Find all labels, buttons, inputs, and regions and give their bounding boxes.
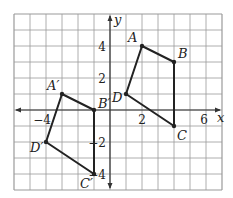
vertex-label: B′ bbox=[97, 96, 111, 111]
vertex-label: A bbox=[127, 30, 137, 45]
vertex-point bbox=[92, 108, 96, 112]
vertex-point bbox=[44, 140, 48, 144]
vertex-label: C bbox=[177, 128, 187, 143]
vertex-label: D bbox=[111, 90, 123, 105]
tick-label: −4 bbox=[33, 113, 51, 127]
x-axis-arrow-left-icon bbox=[15, 108, 21, 113]
vertex-label: C′ bbox=[80, 176, 93, 191]
vertex-label: A′ bbox=[46, 78, 59, 93]
tick-labels: 42−2−4−426 bbox=[33, 40, 208, 182]
vertex-point bbox=[172, 124, 176, 128]
y-axis-label: y bbox=[113, 12, 122, 27]
x-axis-label: x bbox=[217, 110, 225, 125]
coordinate-plane: xy 42−2−4−426 ABCDA′B′C′D′ bbox=[0, 0, 233, 198]
tick-label: 2 bbox=[98, 72, 106, 86]
tick-label: 2 bbox=[138, 113, 146, 127]
coordinate-plane-figure: xy 42−2−4−426 ABCDA′B′C′D′ bbox=[0, 0, 233, 198]
tick-label: 6 bbox=[200, 113, 208, 127]
vertex-label: D′ bbox=[29, 140, 43, 155]
quadrilateral-outline bbox=[46, 94, 94, 174]
tick-label: 4 bbox=[98, 40, 106, 54]
y-axis-arrow-up-icon bbox=[108, 15, 113, 21]
quadrilateral-outline bbox=[126, 46, 174, 126]
vertex-label: B bbox=[177, 46, 188, 61]
vertex-point bbox=[60, 92, 64, 96]
vertex-point bbox=[140, 44, 144, 48]
vertex-point bbox=[124, 92, 128, 96]
tick-label: −2 bbox=[88, 136, 106, 150]
vertex-point bbox=[172, 60, 176, 64]
y-axis-arrow-down-icon bbox=[108, 183, 113, 189]
